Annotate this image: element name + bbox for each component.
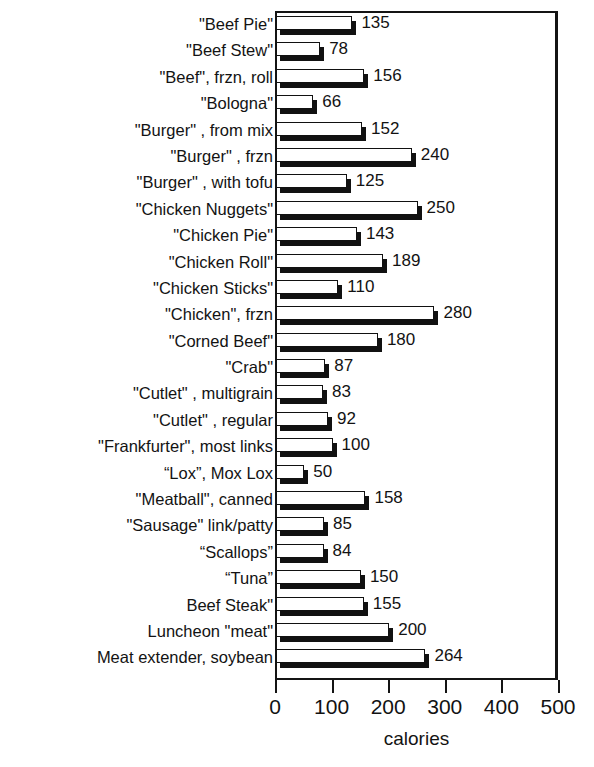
bar-row: “Scallops”84 — [0, 541, 594, 567]
bar-body — [276, 544, 324, 558]
bar-body — [276, 174, 347, 188]
bar-body — [276, 412, 328, 426]
bar-value-label: 156 — [373, 66, 401, 86]
x-axis — [275, 680, 558, 694]
bar-value-label: 250 — [427, 198, 455, 218]
bar — [276, 227, 361, 246]
x-axis-tick-label: 100 — [307, 694, 357, 719]
bar-body — [276, 280, 338, 294]
category-label: "Cutlet" , regular — [153, 410, 273, 430]
bar-body — [276, 122, 362, 136]
bar — [276, 385, 327, 404]
bar — [276, 597, 368, 616]
bar — [276, 254, 387, 273]
bar-value-label: 110 — [347, 277, 374, 297]
bar-body — [276, 306, 434, 320]
bar-row: "Chicken Sticks"110 — [0, 277, 594, 303]
bar-value-label: 78 — [329, 39, 348, 59]
bar-row: "Burger" , with tofu125 — [0, 171, 594, 197]
category-label: "Burger" , with tofu — [137, 172, 273, 192]
x-axis-title: calories — [275, 728, 558, 750]
category-label: "Crab" — [226, 357, 273, 377]
category-label: Meat extender, soybean — [97, 647, 273, 667]
category-label: "Bologna" — [201, 93, 273, 113]
bar — [276, 544, 328, 563]
bar — [276, 95, 317, 114]
bar-row: "Crab"87 — [0, 356, 594, 382]
x-axis-tick — [332, 680, 334, 693]
category-label: “Lox”, Mox Lox — [164, 463, 273, 483]
x-axis-tick — [275, 680, 277, 693]
category-label: "Cutlet" , multigrain — [133, 383, 273, 403]
bar — [276, 174, 351, 193]
bar-value-label: 92 — [337, 409, 356, 429]
bar-row: "Beef", frzn, roll156 — [0, 66, 594, 92]
bar — [276, 122, 366, 141]
bar-body — [276, 201, 418, 215]
bar — [276, 491, 369, 510]
bar-row: “Tuna”150 — [0, 567, 594, 593]
bar-value-label: 50 — [313, 462, 332, 482]
bar-row: "Cutlet" , multigrain83 — [0, 382, 594, 408]
chart-title: VEGETARIAN FOODS — [0, 0, 594, 3]
category-label: “Tuna” — [225, 568, 273, 588]
bar-row: "Meatball", canned158 — [0, 488, 594, 514]
bar-body — [276, 623, 389, 637]
category-label: "Corned Beef" — [169, 331, 273, 351]
category-label: "Frankfurter", most links — [98, 436, 273, 456]
bar-value-label: 85 — [333, 514, 352, 534]
bar-row: "Beef Stew"78 — [0, 39, 594, 65]
bar-row: “Lox”, Mox Lox50 — [0, 462, 594, 488]
bar-body — [276, 570, 361, 584]
bar — [276, 42, 324, 61]
bar-row: "Bologna"66 — [0, 92, 594, 118]
x-axis-tick-label: 300 — [420, 694, 470, 719]
bar-value-label: 264 — [434, 646, 462, 666]
category-label: "Chicken Pie" — [173, 225, 273, 245]
x-axis-tick — [388, 680, 390, 693]
bar-row: "Sausage" link/patty85 — [0, 514, 594, 540]
bar-body — [276, 359, 325, 373]
bar — [276, 465, 308, 484]
bar-body — [276, 385, 323, 399]
bar-value-label: 135 — [361, 13, 389, 33]
bar-value-label: 200 — [398, 620, 426, 640]
bar-row: Meat extender, soybean264 — [0, 646, 594, 672]
bar-row: "Chicken", frzn280 — [0, 303, 594, 329]
bar-value-label: 150 — [370, 567, 398, 587]
category-label: Luncheon "meat" — [148, 621, 273, 641]
category-label: "Chicken", frzn — [165, 304, 273, 324]
category-label: "Burger" , from mix — [135, 120, 273, 140]
bar-value-label: 189 — [392, 251, 420, 271]
bar — [276, 306, 438, 325]
bar — [276, 16, 356, 35]
bar — [276, 570, 365, 589]
bar-row: "Beef Pie"135 — [0, 13, 594, 39]
bar-value-label: 125 — [356, 171, 384, 191]
bar-body — [276, 649, 425, 663]
bar-body — [276, 333, 378, 347]
bar-body — [276, 42, 320, 56]
bar-value-label: 158 — [374, 488, 402, 508]
bar-row: "Chicken Pie"143 — [0, 224, 594, 250]
bar-value-label: 280 — [443, 303, 471, 323]
bar — [276, 623, 393, 642]
bar — [276, 280, 342, 299]
category-label: “Scallops” — [200, 542, 273, 562]
bar-row: Luncheon "meat"200 — [0, 620, 594, 646]
bar — [276, 69, 368, 88]
bar-body — [276, 597, 364, 611]
category-label: "Chicken Nuggets" — [136, 199, 273, 219]
category-label: "Chicken Sticks" — [153, 278, 273, 298]
bar-value-label: 66 — [322, 92, 341, 112]
bar-body — [276, 465, 304, 479]
bar-body — [276, 16, 352, 30]
category-label: "Meatball", canned — [136, 489, 273, 509]
category-label: "Sausage" link/patty — [126, 515, 273, 535]
bar-body — [276, 95, 313, 109]
bar-value-label: 155 — [373, 594, 401, 614]
bar-value-label: 100 — [342, 435, 370, 455]
bar-row: "Chicken Roll"189 — [0, 251, 594, 277]
x-axis-tick-label: 200 — [363, 694, 413, 719]
category-label: "Beef", frzn, roll — [159, 67, 273, 87]
